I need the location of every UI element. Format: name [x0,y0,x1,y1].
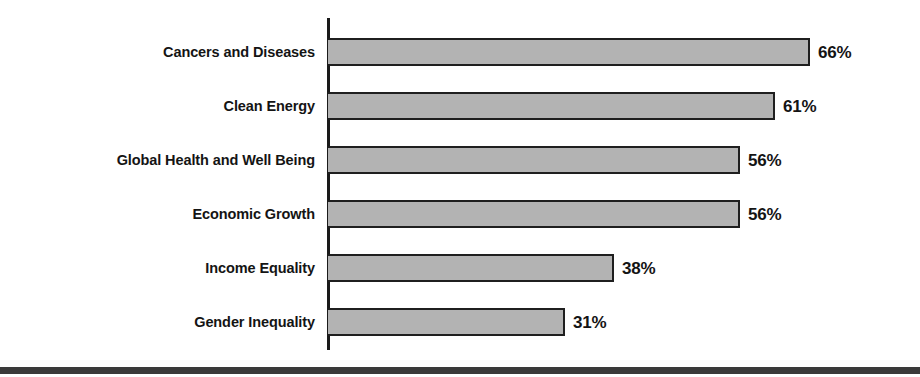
category-label: Cancers and Diseases [163,38,315,66]
bar [328,38,810,66]
category-label: Income Equality [205,254,315,282]
bar-chart: Cancers and Diseases 66% Clean Energy 61… [0,0,920,377]
bar-row: Global Health and Well Being 56% [0,146,920,174]
bar-row: Clean Energy 61% [0,92,920,120]
bar-row: Gender Inequality 31% [0,308,920,336]
category-label: Gender Inequality [194,308,315,336]
bar-value-label: 56% [748,146,781,174]
bottom-divider-rule [0,367,920,374]
bar [328,308,565,336]
bar-value-label: 56% [748,200,781,228]
plot-area: Cancers and Diseases 66% Clean Energy 61… [0,0,920,360]
bar-row: Cancers and Diseases 66% [0,38,920,66]
category-label: Global Health and Well Being [117,146,315,174]
bar [328,92,775,120]
bar-value-label: 66% [818,38,851,66]
bar-value-label: 61% [783,92,816,120]
bar-value-label: 31% [573,308,606,336]
bar [328,146,740,174]
bar [328,254,614,282]
bar-row: Economic Growth 56% [0,200,920,228]
category-label: Clean Energy [224,92,315,120]
bar-value-label: 38% [622,254,655,282]
bar-row: Income Equality 38% [0,254,920,282]
bar [328,200,740,228]
category-label: Economic Growth [192,200,315,228]
value-axis-line [327,18,330,350]
